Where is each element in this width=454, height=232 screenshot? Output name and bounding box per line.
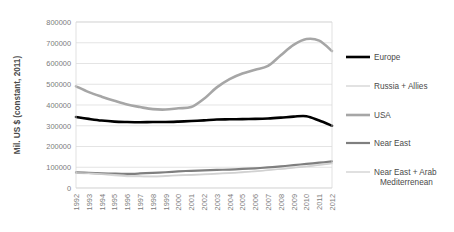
legend-label-near-east-arab-mediterrenean-line2: Mediterrenean xyxy=(380,178,433,187)
y-tick-label: 400000 xyxy=(46,101,71,110)
x-tick-label: 2007 xyxy=(264,194,273,210)
x-tick-label: 2002 xyxy=(200,194,209,210)
y-tick-label: 200000 xyxy=(46,142,71,151)
x-tick-label: 2006 xyxy=(251,194,260,210)
chart-legend: EuropeRussia + AlliesUSANear EastNear Ea… xyxy=(346,53,437,187)
x-tick-label: 1997 xyxy=(136,194,145,210)
x-tick-label: 2000 xyxy=(174,194,183,210)
x-tick-label: 1999 xyxy=(162,194,171,210)
x-tick-label: 1992 xyxy=(72,194,81,210)
x-tick-label: 2005 xyxy=(238,194,247,210)
y-axis-tick-labels: 8000007000006000005000004000003000002000… xyxy=(46,18,71,193)
y-tick-label: 700000 xyxy=(46,39,71,48)
x-tick-label: 1995 xyxy=(110,194,119,210)
x-tick-label: 2009 xyxy=(290,194,299,210)
x-tick-label: 2010 xyxy=(302,194,311,210)
x-tick-label: 2011 xyxy=(315,194,324,210)
y-tick-label: 100000 xyxy=(46,163,71,172)
x-tick-label: 2004 xyxy=(226,194,235,210)
legend-label-near-east: Near East xyxy=(374,139,411,148)
y-axis-title: Mil. US $ (constant, 2011) xyxy=(13,56,22,155)
chart-container: 8000007000006000005000004000003000002000… xyxy=(0,0,454,232)
x-tick-label: 2001 xyxy=(187,194,196,210)
x-tick-label: 2012 xyxy=(328,194,337,210)
x-tick-label: 1996 xyxy=(123,194,132,210)
y-tick-label: 300000 xyxy=(46,122,71,131)
x-tick-label: 1998 xyxy=(149,194,158,210)
legend-label-russia-allies: Russia + Allies xyxy=(374,82,427,91)
line-chart: 8000007000006000005000004000003000002000… xyxy=(0,0,454,232)
y-tick-label: 800000 xyxy=(46,18,71,27)
y-tick-label: 0 xyxy=(67,184,71,193)
x-tick-label: 2008 xyxy=(277,194,286,210)
x-axis-tick-labels: 1992199319941995199619971998199920002001… xyxy=(72,194,337,210)
x-tick-label: 1994 xyxy=(98,194,107,210)
y-tick-label: 500000 xyxy=(46,80,71,89)
x-tick-label: 1993 xyxy=(85,194,94,210)
legend-label-europe: Europe xyxy=(374,53,401,62)
y-tick-label: 600000 xyxy=(46,59,71,68)
x-tick-label: 2003 xyxy=(213,194,222,210)
legend-label-near-east-arab-mediterrenean: Near East + Arab xyxy=(374,168,437,177)
legend-label-usa: USA xyxy=(374,111,391,120)
